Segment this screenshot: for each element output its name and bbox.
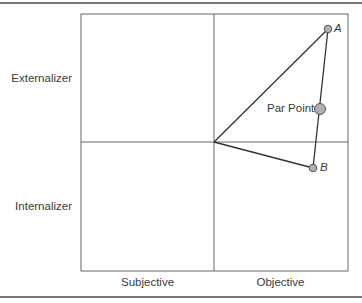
point-a-marker xyxy=(324,25,332,33)
quadrant-diagram xyxy=(0,0,362,303)
line-a-to-b xyxy=(313,29,328,168)
point-a-label: A xyxy=(334,22,342,34)
par-point-label: Par Point xyxy=(267,102,314,114)
x-label-subjective: Subjective xyxy=(81,276,214,288)
y-label-externalizer: Externalizer xyxy=(0,72,72,84)
point-b-label: B xyxy=(320,161,328,173)
line-origin-to-b xyxy=(214,142,313,168)
y-label-internalizer: Internalizer xyxy=(0,200,72,212)
point-b-marker xyxy=(309,164,317,172)
par-point-marker xyxy=(315,104,326,115)
x-label-objective: Objective xyxy=(214,276,347,288)
line-origin-to-a xyxy=(214,29,328,142)
